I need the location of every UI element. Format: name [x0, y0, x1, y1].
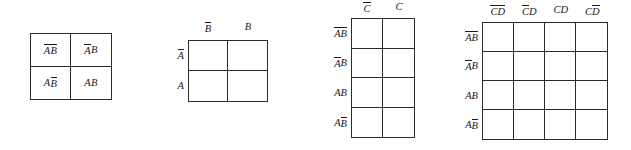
kmap-cell[interactable]: [483, 81, 514, 110]
kmap-column-label: CD: [545, 5, 577, 18]
kmap-row-label: A B: [447, 22, 482, 52]
kmap-cell[interactable]: [545, 81, 576, 110]
kmap-row-label: A B: [447, 111, 482, 141]
kmap-row-label: A B: [447, 81, 482, 111]
kmap-cell[interactable]: [483, 23, 514, 52]
kmap-column-label: C: [383, 2, 415, 15]
kmap-cell[interactable]: A B: [31, 34, 71, 67]
kmap-column-label: C: [351, 2, 383, 15]
kmap-row-label: A: [160, 71, 188, 102]
kmap-cell[interactable]: [483, 52, 514, 81]
kmap-column-label: B: [228, 22, 268, 35]
kmap-row-headers: AA: [160, 40, 188, 102]
kmap-column-headers: CC: [351, 2, 415, 15]
kmap-row-label: A B: [447, 52, 482, 82]
kmap-row-label: A B: [316, 108, 351, 138]
kmap-cell[interactable]: [383, 78, 414, 108]
kmap-cell[interactable]: [514, 110, 545, 139]
kmap-column-label: CD: [577, 5, 609, 18]
kmap-cell[interactable]: A B: [71, 67, 111, 100]
kmap-cell[interactable]: [228, 41, 267, 71]
kmap-cell[interactable]: A B: [71, 34, 111, 67]
kmap-cell[interactable]: [514, 81, 545, 110]
kmap-cell[interactable]: [352, 49, 383, 79]
kmap-row-headers: A BA BA BA B: [316, 18, 351, 138]
kmap-cell[interactable]: A B: [31, 67, 71, 100]
kmap-cell[interactable]: [189, 71, 228, 101]
kmap-cell[interactable]: [189, 41, 228, 71]
kmap-grid: [188, 40, 268, 102]
kmap-grid: [351, 18, 415, 138]
kmap-row-label: A B: [316, 18, 351, 48]
karnaugh-map-figure: A BA BA BA B BB AA CC A BA BA BA B CDCDC…: [0, 0, 631, 150]
kmap-cell[interactable]: [576, 81, 607, 110]
kmap-cell[interactable]: [383, 19, 414, 49]
kmap-cell[interactable]: [352, 19, 383, 49]
kmap-row-label: A B: [316, 48, 351, 78]
kmap-cell[interactable]: [576, 23, 607, 52]
kmap-row-headers: A BA BA BA B: [447, 22, 482, 140]
kmap-column-label: B: [188, 22, 228, 35]
kmap-cell[interactable]: [383, 108, 414, 138]
kmap-column-headers: BB: [188, 22, 268, 35]
kmap-column-label: CD: [482, 5, 514, 18]
kmap-grid: [482, 22, 608, 140]
kmap-column-label: CD: [514, 5, 546, 18]
kmap-row-label: A: [160, 40, 188, 71]
kmap-cell[interactable]: [576, 52, 607, 81]
kmap-cell[interactable]: [545, 23, 576, 52]
kmap-cell[interactable]: [545, 52, 576, 81]
kmap-cell[interactable]: [383, 49, 414, 79]
kmap-row-label: A B: [316, 78, 351, 108]
kmap-column-headers: CDCDCDCD: [482, 5, 608, 18]
kmap-cell[interactable]: [483, 110, 514, 139]
kmap-grid: A BA BA BA B: [30, 33, 112, 100]
kmap-cell[interactable]: [514, 23, 545, 52]
kmap-cell[interactable]: [514, 52, 545, 81]
kmap-cell[interactable]: [576, 110, 607, 139]
kmap-cell[interactable]: [352, 78, 383, 108]
kmap-cell[interactable]: [545, 110, 576, 139]
kmap-cell[interactable]: [352, 108, 383, 138]
kmap-cell[interactable]: [228, 71, 267, 101]
